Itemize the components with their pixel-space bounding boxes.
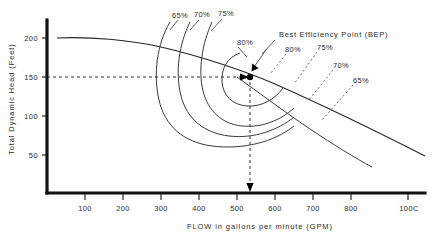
leader-65-right (322, 85, 353, 120)
bep-arrowhead-upper (252, 64, 259, 72)
bep-annotation-label: Best Efficiency Point (BEP) (279, 30, 388, 39)
label-efficiency-70-right: 70% (333, 61, 349, 70)
efficiency-labels-right: 80% 75% 70% 65% (285, 43, 369, 85)
y-axis-title: Total Dynamic Head (Feet) (7, 43, 16, 155)
label-efficiency-75-left: 75% (218, 9, 234, 18)
efficiency-labels-left: 65% 70% 75% 80% (172, 9, 253, 47)
y-tick-label-50: 50 (29, 151, 38, 160)
pump-head-curve (57, 38, 425, 156)
leader-75-left (211, 19, 222, 31)
x-tick-label-100: 100 (78, 204, 92, 213)
bep-annotation-leader (262, 40, 275, 54)
efficiency-contour-65 (156, 22, 294, 147)
label-efficiency-80-right: 80% (285, 45, 301, 54)
x-tick-labels: 100 200 300 400 500 600 700 800 100C (78, 204, 419, 213)
y-tick-label-200: 200 (24, 34, 38, 43)
y-tick-labels: 200 150 100 50 (24, 34, 38, 160)
leader-80-right (270, 54, 286, 74)
label-efficiency-75-right: 75% (317, 43, 333, 52)
efficiency-contour-80 (222, 53, 283, 106)
label-efficiency-65-left: 65% (172, 11, 188, 20)
x-tick-marks (85, 194, 408, 200)
system-curve (237, 77, 372, 167)
chart-canvas: 100 200 300 400 500 600 700 800 100C 200… (0, 0, 439, 242)
x-tick-label-1000: 100C (399, 204, 419, 213)
leader-70-left (190, 20, 199, 30)
x-axis-title: FLOW in gallons per minute (GPM) (187, 222, 333, 231)
leader-75-right (294, 52, 317, 84)
leader-70-right (308, 70, 333, 101)
bep-marker-group (240, 50, 266, 80)
bep-point (247, 74, 253, 80)
label-efficiency-65-right: 65% (353, 76, 369, 85)
x-tick-label-400: 400 (192, 204, 206, 213)
y-tick-label-100: 100 (24, 112, 38, 121)
left-label-leaders (170, 19, 247, 57)
bep-leader-upper (254, 50, 266, 67)
x-tick-label-600: 600 (268, 204, 282, 213)
x-tick-label-500: 500 (230, 204, 244, 213)
flow-guide-arrowhead (246, 183, 253, 192)
leader-80-left (238, 47, 247, 57)
x-tick-label-200: 200 (116, 204, 130, 213)
axes-group (47, 20, 425, 193)
label-efficiency-80-left: 80% (237, 38, 253, 47)
label-efficiency-70-left: 70% (194, 10, 210, 19)
x-tick-label-300: 300 (154, 204, 168, 213)
y-tick-label-150: 150 (24, 73, 38, 82)
efficiency-contours-group (156, 22, 294, 147)
x-tick-label-800: 800 (344, 204, 358, 213)
leader-65-left (170, 20, 178, 30)
x-tick-label-700: 700 (306, 204, 320, 213)
pump-performance-chart: 100 200 300 400 500 600 700 800 100C 200… (0, 0, 439, 242)
